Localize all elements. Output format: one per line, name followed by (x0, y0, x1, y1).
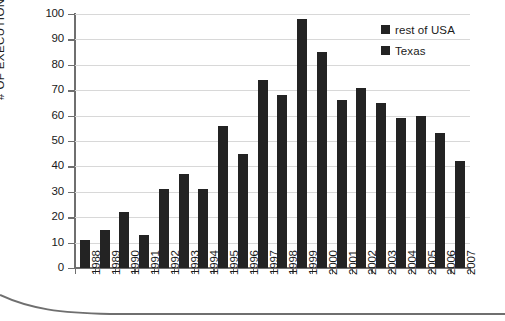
y-tick-mark (68, 90, 74, 91)
gridline (75, 166, 470, 167)
bar (435, 133, 445, 268)
y-tick-mark (68, 141, 74, 142)
y-tick-mark (68, 14, 74, 15)
gridline (75, 90, 470, 91)
y-tick-mark (68, 39, 74, 40)
x-tick-label: 2000 (327, 250, 339, 275)
x-tick-label: 2005 (426, 250, 438, 275)
bar (258, 80, 268, 268)
x-tick-label: 1991 (149, 250, 161, 275)
y-tick-label: 0 (58, 261, 64, 273)
x-tick-label: 1999 (307, 250, 319, 275)
x-tick-mark (75, 268, 76, 274)
bar (376, 103, 386, 268)
gridline (75, 65, 470, 66)
bar (277, 95, 287, 268)
x-tick-label: 2004 (406, 250, 418, 275)
y-tick-label-wrap: 60 (30, 109, 64, 123)
bar (396, 118, 406, 268)
bar (337, 100, 347, 268)
y-tick-mark (68, 217, 74, 218)
y-axis-title: # OF EXECUTIONS (0, 0, 6, 100)
x-tick-label: 1990 (129, 250, 141, 275)
x-tick-label: 2007 (465, 250, 477, 275)
gridline (75, 116, 470, 117)
x-tick-label: 2003 (386, 250, 398, 275)
y-tick-label: 20 (52, 210, 64, 222)
x-tick-label: 1988 (90, 250, 102, 275)
legend-item-rest-of-usa: rest of USA (381, 19, 455, 40)
x-tick-label: 1989 (110, 250, 122, 275)
executions-bar-chart-figure: # OF EXECUTIONS 0102030405060708090100 1… (0, 0, 505, 321)
gridline (75, 243, 470, 244)
y-tick-label: 30 (52, 185, 64, 197)
gridline (75, 217, 470, 218)
y-tick-label-wrap: 80 (30, 58, 64, 72)
bar (218, 126, 228, 268)
y-tick-mark (68, 268, 74, 269)
legend-swatch-icon (381, 46, 390, 55)
bar (416, 116, 426, 268)
legend-item-texas: Texas (381, 40, 455, 61)
legend-label: Texas (395, 45, 426, 57)
x-tick-label: 1995 (228, 250, 240, 275)
y-tick-label-wrap: 0 (30, 261, 64, 275)
gridline (75, 192, 470, 193)
x-tick-label: 1992 (169, 250, 181, 275)
gridline (75, 14, 470, 15)
gridline (75, 141, 470, 142)
bar (80, 240, 90, 268)
y-tick-label: 80 (52, 58, 64, 70)
y-tick-label: 90 (52, 32, 64, 44)
bar (297, 19, 307, 268)
bar (317, 52, 327, 268)
x-tick-label: 1998 (287, 250, 299, 275)
chart-legend: rest of USA Texas (381, 19, 455, 61)
y-tick-label-wrap: 50 (30, 134, 64, 148)
y-tick-label: 10 (52, 236, 64, 248)
y-tick-label: 100 (45, 7, 64, 19)
x-tick-label: 1994 (208, 250, 220, 275)
x-tick-label: 1993 (189, 250, 201, 275)
y-tick-mark (68, 166, 74, 167)
y-tick-label-wrap: 70 (30, 83, 64, 97)
x-tick-label: 1997 (268, 250, 280, 275)
x-tick-label: 1996 (248, 250, 260, 275)
y-tick-label-wrap: 100 (30, 7, 64, 21)
y-tick-label-wrap: 20 (30, 210, 64, 224)
page-edge-decoration (0, 291, 505, 321)
bar (356, 88, 366, 268)
x-tick-label: 2006 (445, 250, 457, 275)
y-tick-mark (68, 192, 74, 193)
legend-label: rest of USA (395, 24, 455, 36)
y-tick-label: 40 (52, 159, 64, 171)
legend-swatch-icon (381, 25, 390, 34)
y-tick-mark (68, 243, 74, 244)
y-tick-label-wrap: 30 (30, 185, 64, 199)
x-tick-label: 2002 (366, 250, 378, 275)
y-tick-label-wrap: 10 (30, 236, 64, 250)
y-tick-label-wrap: 40 (30, 159, 64, 173)
y-tick-label: 60 (52, 109, 64, 121)
y-tick-label: 70 (52, 83, 64, 95)
x-tick-label: 2001 (347, 250, 359, 275)
y-tick-label-wrap: 90 (30, 32, 64, 46)
y-tick-mark (68, 65, 74, 66)
y-tick-label: 50 (52, 134, 64, 146)
y-tick-mark (68, 116, 74, 117)
